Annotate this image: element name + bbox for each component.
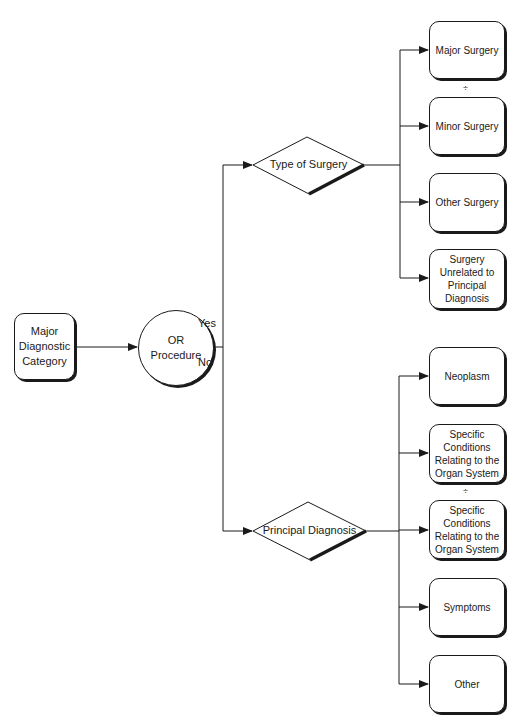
minor-surgery-box: Minor Surgery [429,97,505,155]
continuation-separator: ÷ [463,84,468,93]
major-surgery-label: Major Surgery [436,44,499,57]
other-label: Other [454,678,479,691]
major-diagnostic-category-label: Major Diagnostic Category [17,324,72,369]
symptoms-box: Symptoms [429,578,505,636]
other-surgery-label: Other Surgery [436,196,499,209]
yes-label: Yes [198,317,216,329]
neoplasm-label: Neoplasm [444,370,489,383]
major-surgery-box: Major Surgery [429,21,505,79]
type-of-surgery-label: Type of Surgery [253,158,364,170]
major-diagnostic-category-box: Major Diagnostic Category [14,313,75,380]
neoplasm-box: Neoplasm [429,347,505,405]
surgery-unrelated-label: Surgery Unrelated to Principal Diagnosis [436,253,498,305]
specific-conditions-box-1: Specific Conditions Relating to the Orga… [429,424,505,483]
specific-conditions-label-2: Specific Conditions Relating to the Orga… [432,504,502,556]
specific-conditions-label-1: Specific Conditions Relating to the Orga… [432,428,502,480]
minor-surgery-label: Minor Surgery [436,120,499,133]
no-label: No [198,356,212,368]
or-procedure-label: OR Procedure [146,333,206,363]
specific-conditions-box-2: Specific Conditions Relating to the Orga… [429,500,505,559]
other-surgery-box: Other Surgery [429,173,505,232]
symptoms-label: Symptoms [443,601,490,614]
continuation-separator: ÷ [463,487,468,496]
principal-diagnosis-label: Principal Diagnosis [253,524,366,536]
other-box: Other [429,655,505,713]
surgery-unrelated-box: Surgery Unrelated to Principal Diagnosis [429,249,505,309]
